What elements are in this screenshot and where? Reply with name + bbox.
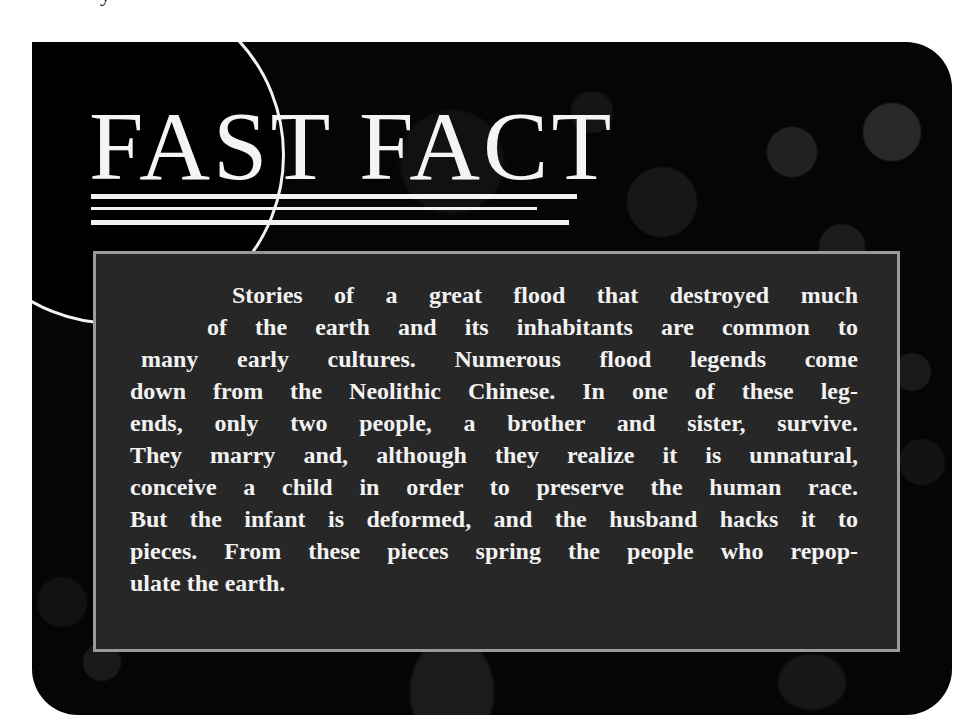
- body-line: They marry and, although they realize it…: [130, 439, 858, 471]
- body-line: But the infant is deformed, and the husb…: [130, 503, 858, 535]
- body-line: of the earth and its inhabitants are com…: [207, 311, 858, 343]
- body-line: conceive a child in order to preserve th…: [130, 471, 858, 503]
- body-line: many early cultures. Numerous flood lege…: [141, 343, 858, 375]
- body-line: pieces. From these pieces spring the peo…: [130, 535, 858, 567]
- body-line: ends, only two people, a brother and sis…: [130, 407, 858, 439]
- fast-fact-card: FAST FACT Stories of a great flood that …: [32, 42, 952, 715]
- card-title: FAST FACT: [89, 96, 614, 196]
- body-line: Stories of a great flood that destroyed …: [232, 279, 858, 311]
- cropped-page-text-fragment: y: [100, 0, 110, 2]
- title-rule-2: [91, 207, 537, 210]
- title-rule-1: [91, 194, 577, 199]
- body-line: down from the Neolithic Chinese. In one …: [130, 375, 858, 407]
- title-rule-3: [91, 220, 569, 225]
- body-line-last: ulate the earth.: [130, 567, 285, 599]
